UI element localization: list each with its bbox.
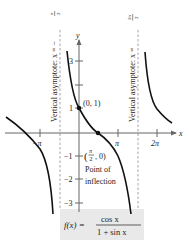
inflection-label-line1: Point of <box>85 165 111 174</box>
y-tick-label-m3: −3 <box>64 199 73 208</box>
curve-right-branch <box>145 52 172 123</box>
formula-numerator: cos x <box>101 214 119 224</box>
y-tick-label-m1: −1 <box>64 152 73 161</box>
function-graph: y x −π π 2π 3 1 −1 −2 −3 (0, 1) ( π 2 , … <box>0 0 189 248</box>
inflection-label-line2: inflection <box>85 177 116 186</box>
asymptote-right-label: Vertical asymptote: x = <box>128 47 137 122</box>
curve-left-branch <box>6 117 53 214</box>
y-tick-label-m2: −2 <box>64 175 73 184</box>
asymptote-right-text: Vertical asymptote: x = <box>128 47 137 122</box>
inflection-pi: π <box>89 148 93 154</box>
y-tick-label-1: 1 <box>69 104 73 113</box>
asymptote-right-num: 3π <box>127 15 132 21</box>
inflection-two: 2 <box>90 156 93 162</box>
formula-lhs: f(x) = <box>64 220 85 230</box>
y-tick-label-3: 3 <box>69 57 73 66</box>
inflection-close: , 0) <box>95 152 106 161</box>
point-inflection <box>96 131 100 135</box>
y-axis-label: y <box>75 31 80 40</box>
point-label-0-1: (0, 1) <box>83 99 101 108</box>
inflection-open-paren: ( <box>84 150 88 163</box>
asymptote-left-label: Vertical asymptote: x = − <box>50 41 59 122</box>
point-0-1 <box>77 106 81 110</box>
asymptote-right-den: 2 <box>134 16 139 19</box>
formula-denominator: 1 + sin x <box>97 227 127 237</box>
x-tick-label-2pi: 2π <box>151 139 160 148</box>
asymptote-left-den: 2 <box>56 12 61 15</box>
asymptote-left-num: π <box>49 12 54 15</box>
x-tick-label-neg-pi: −π <box>32 139 42 148</box>
asymptote-left-text: Vertical asymptote: x = − <box>50 41 59 122</box>
x-axis-label: x <box>178 129 183 138</box>
x-tick-label-pi: π <box>115 139 120 148</box>
